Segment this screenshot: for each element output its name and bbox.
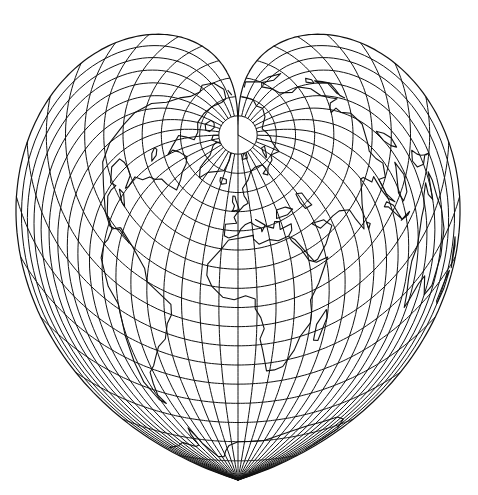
meridian-line [102, 139, 238, 481]
coastline [220, 178, 227, 185]
meridian-line [27, 58, 238, 480]
graticule-lines [16, 35, 459, 480]
coastline [306, 78, 315, 83]
coastline [103, 83, 226, 243]
meridian-line [238, 129, 398, 480]
coastline [412, 150, 429, 167]
meridian-line [116, 142, 238, 480]
coastline [119, 189, 124, 207]
meridian-line [238, 139, 374, 481]
coastline [244, 74, 395, 262]
meridian-line [238, 58, 449, 480]
coastline [367, 222, 371, 229]
coastlines [101, 74, 455, 457]
werner-projection-map [0, 0, 478, 495]
coastline [314, 309, 328, 340]
meridian-line [78, 129, 238, 480]
coastline [152, 148, 157, 162]
